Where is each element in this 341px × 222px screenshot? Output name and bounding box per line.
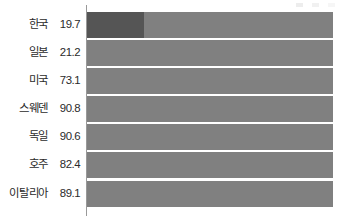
bar-row xyxy=(87,124,333,150)
value-label: 73.1 xyxy=(53,75,80,86)
bar-row xyxy=(87,40,333,66)
category-label: 호주 xyxy=(29,159,48,170)
value-label: 90.8 xyxy=(53,103,80,114)
axis-label-row: 이탈리아 89.1 xyxy=(0,181,80,207)
axis-label-row: 호주 82.4 xyxy=(0,152,80,178)
axis-label-row: 독일 90.6 xyxy=(0,124,80,150)
category-label: 이탈리아 xyxy=(9,188,48,199)
category-label: 일본 xyxy=(29,47,48,58)
axis-label-row: 스웨덴 90.8 xyxy=(0,96,80,122)
value-label: 21.2 xyxy=(53,47,80,58)
bar-row xyxy=(87,12,333,38)
category-axis-labels: 한국 19.7 일본 21.2 미국 73.1 스웨덴 90.8 독일 90.6… xyxy=(0,0,80,222)
axis-label-row: 한국 19.7 xyxy=(0,12,80,38)
bar-row xyxy=(87,96,333,122)
bar-segment-base xyxy=(87,124,333,150)
bar-segment-base xyxy=(87,181,333,207)
bar-segment-base xyxy=(144,12,333,38)
bar-row xyxy=(87,152,333,178)
axis-label-row: 일본 21.2 xyxy=(0,40,80,66)
category-label: 미국 xyxy=(29,75,48,86)
category-label: 스웨덴 xyxy=(19,103,48,114)
bar-segment-highlight xyxy=(87,12,144,38)
category-label: 독일 xyxy=(29,131,48,142)
plot-area xyxy=(86,0,341,222)
axis-label-row: 미국 73.1 xyxy=(0,68,80,94)
category-label: 한국 xyxy=(29,19,48,30)
value-label: 90.6 xyxy=(53,131,80,142)
bar-row xyxy=(87,181,333,207)
value-label: 82.4 xyxy=(53,159,80,170)
bar-segment-base xyxy=(87,40,333,66)
bar-segment-base xyxy=(87,96,333,122)
value-label: 89.1 xyxy=(53,188,80,199)
bar-segment-base xyxy=(87,68,333,94)
bar-row xyxy=(87,68,333,94)
bar-chart: 한국 19.7 일본 21.2 미국 73.1 스웨덴 90.8 독일 90.6… xyxy=(0,0,341,222)
bar-segment-base xyxy=(87,152,333,178)
value-label: 19.7 xyxy=(53,19,80,30)
